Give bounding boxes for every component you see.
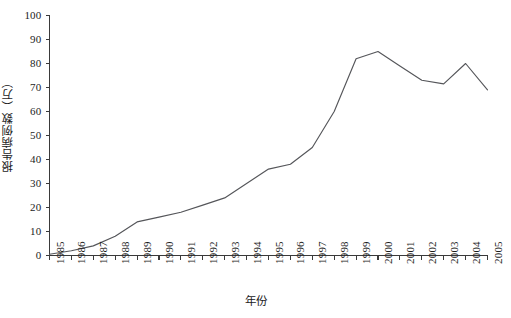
y-tick-label: 50 bbox=[0, 130, 42, 141]
x-tick-label: 1991 bbox=[186, 241, 197, 264]
y-tick-label: 70 bbox=[0, 82, 42, 93]
x-tick-label: 1999 bbox=[361, 241, 372, 264]
x-tick-label: 1996 bbox=[295, 241, 306, 264]
x-tick-label: 1997 bbox=[317, 241, 328, 264]
y-tick-label: 60 bbox=[0, 106, 42, 117]
x-tick-label: 1998 bbox=[339, 241, 350, 264]
data-series-line bbox=[50, 52, 488, 255]
x-tick-label: 1986 bbox=[76, 241, 87, 264]
x-tick-label: 1985 bbox=[55, 241, 66, 264]
y-tick-label: 20 bbox=[0, 202, 42, 213]
line-chart: 报告病例数（万） 年份 0102030405060708090100 19851… bbox=[0, 0, 511, 318]
x-tick-label: 1992 bbox=[208, 241, 219, 264]
x-tick-label: 1994 bbox=[252, 241, 263, 264]
x-tick-label: 2004 bbox=[471, 241, 482, 264]
y-tick-label: 40 bbox=[0, 154, 42, 165]
x-axis-ticks bbox=[50, 256, 488, 260]
x-tick-label: 1989 bbox=[142, 241, 153, 264]
plot-area bbox=[0, 0, 511, 318]
y-tick-label: 30 bbox=[0, 178, 42, 189]
x-tick-label: 1987 bbox=[98, 241, 109, 264]
y-tick-label: 90 bbox=[0, 34, 42, 45]
y-tick-label: 10 bbox=[0, 226, 42, 237]
y-tick-label: 80 bbox=[0, 58, 42, 69]
x-tick-label: 2002 bbox=[427, 241, 438, 264]
x-tick-label: 2000 bbox=[383, 241, 394, 264]
y-tick-label: 100 bbox=[0, 10, 42, 21]
y-tick-label: 0 bbox=[0, 250, 42, 261]
axes bbox=[46, 16, 488, 260]
y-axis-ticks bbox=[46, 16, 50, 256]
x-tick-label: 1988 bbox=[120, 241, 131, 264]
x-tick-label: 2001 bbox=[405, 241, 416, 264]
x-tick-label: 2005 bbox=[493, 241, 504, 264]
x-tick-label: 1993 bbox=[230, 241, 241, 264]
x-tick-label: 1990 bbox=[164, 241, 175, 264]
x-tick-label: 1995 bbox=[274, 241, 285, 264]
x-tick-label: 2003 bbox=[449, 241, 460, 264]
x-axis-title: 年份 bbox=[0, 292, 511, 308]
